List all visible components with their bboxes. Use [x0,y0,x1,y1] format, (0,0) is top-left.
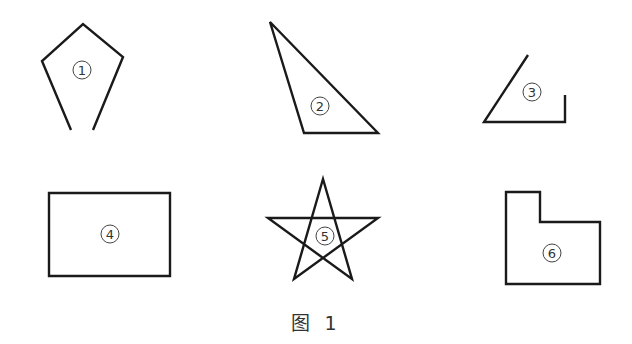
shape-6: 6 [506,192,600,284]
shape-2-outline [270,22,378,133]
shape-4-label: 4 [106,227,114,242]
shape-6-outline [506,192,600,284]
shape-3-label: 3 [528,85,536,100]
shape-3: 3 [484,55,565,122]
shape-5: 5 [268,179,378,279]
shape-2: 2 [270,22,378,133]
shape-1: 1 [42,24,123,130]
figure-canvas: 1 2 3 4 5 6 [0,0,632,344]
shape-5-label: 5 [321,229,329,244]
figure-caption: 图 1 [0,308,632,335]
shape-4: 4 [49,193,170,276]
shape-3-outline [484,55,565,122]
shape-6-label: 6 [548,246,556,261]
shape-1-label: 1 [78,63,86,78]
shape-2-label: 2 [316,99,324,114]
